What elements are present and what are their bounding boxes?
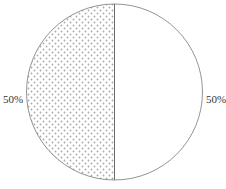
pie-chart: 50% 50% (0, 0, 226, 189)
slice-right-plain (115, 4, 203, 180)
label-left: 50% (3, 93, 23, 105)
label-right: 50% (206, 93, 226, 105)
slice-left-dotted (27, 4, 115, 180)
